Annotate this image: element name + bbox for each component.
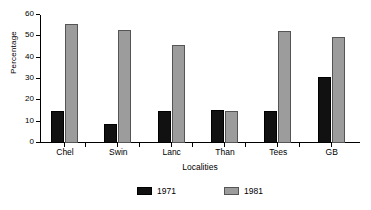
bar-lanc-1981 bbox=[172, 45, 185, 143]
x-tick-label: Swin bbox=[88, 147, 148, 157]
y-tick: 0 bbox=[36, 142, 40, 143]
bar-chel-1981 bbox=[65, 24, 78, 143]
y-tick: 50 bbox=[36, 35, 40, 36]
bar-tees-1981 bbox=[278, 31, 291, 143]
y-tick-label: 20 bbox=[25, 94, 34, 103]
y-tick-label: 50 bbox=[25, 30, 34, 39]
y-tick-label: 40 bbox=[25, 52, 34, 61]
legend-item-1981[interactable]: 1981 bbox=[224, 186, 263, 196]
legend-swatch-icon bbox=[224, 187, 239, 195]
x-tick-label: Lanc bbox=[142, 147, 202, 157]
y-tick: 40 bbox=[36, 57, 40, 58]
x-tick-label: Tees bbox=[248, 147, 308, 157]
bar-chart: Percentage 0102030405060 ChelSwinLancTha… bbox=[0, 0, 371, 210]
legend: 19711981 bbox=[40, 186, 360, 196]
y-axis-title: Percentage bbox=[9, 18, 18, 88]
legend-label: 1981 bbox=[244, 186, 263, 196]
bar-chel-1971 bbox=[51, 111, 64, 143]
plot-area: 0102030405060 ChelSwinLancThanTeesGB bbox=[40, 15, 360, 143]
y-tick-label: 0 bbox=[30, 137, 34, 146]
x-tick-label: GB bbox=[302, 147, 362, 157]
legend-item-1971[interactable]: 1971 bbox=[137, 186, 176, 196]
y-tick: 30 bbox=[36, 78, 40, 79]
bar-swin-1981 bbox=[118, 30, 131, 143]
y-tick: 10 bbox=[36, 121, 40, 122]
y-tick: 20 bbox=[36, 99, 40, 100]
bar-than-1981 bbox=[225, 111, 238, 143]
x-tick-label: Than bbox=[195, 147, 255, 157]
x-tick-label: Chel bbox=[35, 147, 95, 157]
x-axis-line bbox=[40, 142, 360, 143]
y-tick-label: 10 bbox=[25, 116, 34, 125]
bar-gb-1971 bbox=[318, 77, 331, 143]
bar-than-1971 bbox=[211, 110, 224, 143]
y-tick-label: 60 bbox=[25, 9, 34, 18]
legend-label: 1971 bbox=[157, 186, 176, 196]
bar-lanc-1971 bbox=[158, 111, 171, 143]
bar-gb-1981 bbox=[332, 37, 345, 143]
y-axis-line bbox=[40, 15, 41, 143]
y-tick-label: 30 bbox=[25, 73, 34, 82]
bar-tees-1971 bbox=[264, 111, 277, 143]
y-tick: 60 bbox=[36, 14, 40, 15]
bar-swin-1971 bbox=[104, 124, 117, 143]
x-axis-title: Localities bbox=[40, 162, 360, 172]
legend-swatch-icon bbox=[137, 187, 152, 195]
